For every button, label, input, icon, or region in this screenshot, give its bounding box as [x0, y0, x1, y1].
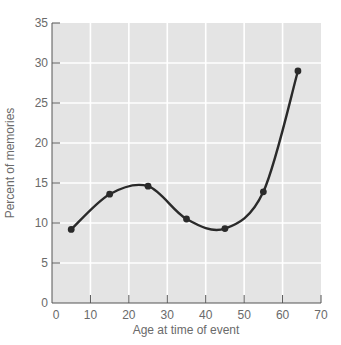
y-tick-label: 15 — [35, 176, 49, 190]
data-point — [222, 225, 229, 232]
x-tick-label: 40 — [199, 308, 213, 322]
x-tick-label: 20 — [122, 308, 136, 322]
data-point — [106, 191, 113, 198]
y-tick-label: 25 — [35, 96, 49, 110]
x-tick-label: 10 — [84, 308, 98, 322]
y-tick-label: 5 — [41, 256, 48, 270]
y-tick-label: 0 — [41, 296, 48, 310]
chart: 010203040506070 05101520253035 Age at ti… — [0, 0, 341, 345]
x-tick-label: 0 — [53, 308, 60, 322]
plot-background — [52, 23, 321, 303]
y-tick-label: 20 — [35, 136, 49, 150]
y-axis-label: Percent of memories — [3, 108, 17, 219]
data-point — [260, 188, 267, 195]
data-point — [145, 183, 152, 190]
y-tick-label: 30 — [35, 56, 49, 70]
y-tick-label: 35 — [35, 16, 49, 30]
data-point — [295, 68, 302, 75]
x-tick-label: 30 — [161, 308, 175, 322]
x-axis-label: Age at time of event — [133, 323, 240, 337]
x-tick-label: 70 — [314, 308, 328, 322]
y-tick-label: 10 — [35, 216, 49, 230]
x-tick-label: 50 — [237, 308, 251, 322]
plot-area — [52, 23, 321, 303]
data-point — [183, 216, 190, 223]
x-tick-label: 60 — [276, 308, 290, 322]
data-point — [68, 226, 75, 233]
